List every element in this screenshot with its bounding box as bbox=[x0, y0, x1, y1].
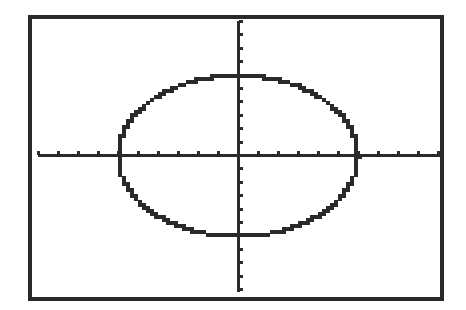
y-tick bbox=[239, 167, 243, 170]
y-tick bbox=[239, 181, 243, 184]
y-tick bbox=[239, 221, 243, 224]
x-tick bbox=[417, 151, 420, 155]
y-tick bbox=[239, 127, 243, 130]
x-tick bbox=[217, 151, 220, 155]
y-tick bbox=[239, 275, 243, 278]
y-tick bbox=[239, 114, 243, 117]
y-tick bbox=[239, 194, 243, 197]
y-tick bbox=[239, 60, 243, 63]
calculator-graph-screen: x^2 + y^2 = 36 bbox=[0, 0, 466, 310]
x-tick bbox=[77, 151, 80, 155]
x-tick bbox=[57, 151, 60, 155]
x-tick bbox=[137, 151, 140, 155]
y-tick bbox=[239, 208, 243, 211]
y-tick bbox=[239, 248, 243, 251]
graph-plot bbox=[0, 0, 466, 310]
y-tick bbox=[239, 20, 243, 23]
x-tick bbox=[277, 151, 280, 155]
x-tick bbox=[177, 151, 180, 155]
x-tick bbox=[297, 151, 300, 155]
y-tick bbox=[239, 33, 243, 36]
screen-frame bbox=[30, 17, 442, 299]
y-tick bbox=[239, 100, 243, 103]
y-tick bbox=[239, 87, 243, 90]
x-tick bbox=[97, 151, 100, 155]
x-tick bbox=[397, 151, 400, 155]
x-tick bbox=[377, 151, 380, 155]
x-tick bbox=[437, 151, 440, 155]
y-tick bbox=[239, 288, 243, 291]
x-tick bbox=[317, 151, 320, 155]
x-tick bbox=[37, 151, 40, 155]
y-tick bbox=[239, 47, 243, 50]
x-tick bbox=[197, 151, 200, 155]
y-tick bbox=[239, 261, 243, 264]
x-tick bbox=[337, 151, 340, 155]
x-tick bbox=[257, 151, 260, 155]
x-tick bbox=[157, 151, 160, 155]
y-tick bbox=[239, 141, 243, 144]
